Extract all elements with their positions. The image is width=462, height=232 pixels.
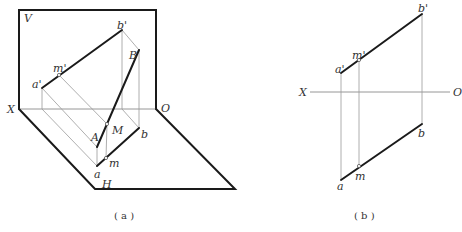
point-M: [105, 122, 108, 125]
label-a-a: a: [94, 168, 101, 181]
label-b-a: b: [141, 128, 148, 141]
label-a-prime-a: a': [32, 78, 42, 91]
label-a-b: a: [337, 180, 344, 193]
point-m: [104, 156, 107, 159]
label-b-prime-b: b': [418, 2, 428, 15]
label-H: H: [101, 178, 112, 191]
label-V: V: [24, 12, 33, 25]
projector-b-h: [122, 109, 139, 128]
label-O-a: O: [161, 102, 170, 115]
label-m-b: m: [355, 170, 365, 183]
label-b-b: b: [418, 127, 425, 140]
projector-b-prime-to-B: [122, 30, 139, 50]
segment-a-prime-b-prime: [42, 30, 122, 88]
label-b-prime-a: b': [117, 19, 127, 32]
h-plane-outline: [19, 109, 235, 189]
figure-b: X O a' m' b' b a m ( b ): [298, 2, 462, 221]
segment-a-prime-b-prime-b: [341, 14, 422, 73]
segment-ab-b: [341, 124, 422, 180]
label-X-a: X: [6, 103, 16, 116]
label-B: B: [128, 49, 137, 62]
projector-m-prime-to-M: [59, 75, 107, 124]
projector-M-to-m: [106, 124, 107, 158]
caption-b: ( b ): [354, 210, 375, 221]
caption-a: ( a ): [114, 210, 134, 221]
label-m-prime-b: m': [352, 49, 365, 62]
label-m-a: m: [109, 157, 119, 170]
figure-a: V X O H a' m' b' B A M a m b ( a ): [6, 10, 235, 221]
label-X-b: X: [298, 86, 308, 99]
point-m-b: [357, 164, 360, 167]
label-m-prime-a: m': [53, 62, 66, 75]
label-O-b: O: [453, 86, 462, 99]
label-a-prime-b: a': [335, 63, 345, 76]
label-M: M: [111, 124, 124, 137]
projection-figure: V X O H a' m' b' B A M a m b ( a ) X O a…: [0, 0, 462, 232]
label-A: A: [90, 131, 99, 144]
